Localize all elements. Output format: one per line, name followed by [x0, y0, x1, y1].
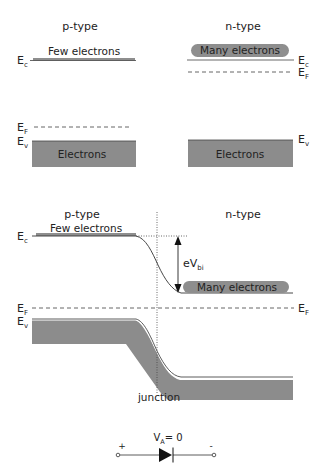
ec-label: Ec — [17, 230, 28, 245]
diode-symbol: VA= 0 + - — [116, 432, 216, 463]
many-electrons-label: Many electrons — [197, 281, 277, 293]
p-type-title: p-type — [62, 20, 98, 33]
ev-label: Ev — [17, 135, 28, 150]
pn-junction: p-type n-type Few electrons Ec Many elec… — [17, 208, 309, 403]
p-type-title: p-type — [64, 208, 100, 221]
many-electrons-label: Many electrons — [200, 44, 280, 56]
few-electrons-label: Few electrons — [50, 222, 122, 234]
ef-right-label: EF — [298, 302, 309, 317]
ef-label: EF — [17, 121, 28, 136]
electrons-label: Electrons — [58, 148, 107, 160]
band-diagram: p-type Few electrons Ec EF Ev Electrons … — [0, 0, 324, 476]
electrons-label: Electrons — [216, 148, 265, 160]
barrier-label: eVbi — [183, 257, 204, 272]
arrow-down-head-icon — [175, 284, 182, 293]
few-electrons-label: Few electrons — [48, 45, 120, 57]
ev-label: Ev — [17, 315, 28, 330]
arrow-up-head-icon — [175, 236, 182, 245]
plus-terminal-label: + — [118, 441, 126, 451]
applied-voltage-label: VA= 0 — [153, 432, 182, 446]
cathode-terminal-icon — [212, 453, 216, 457]
n-type-title: n-type — [225, 20, 261, 33]
ec-label: Ec — [17, 54, 28, 69]
anode-terminal-icon — [116, 453, 120, 457]
minus-terminal-label: - — [209, 441, 212, 451]
n-type-title: n-type — [225, 208, 261, 221]
n-type-isolated: n-type Many electrons Ec EF Ev Electrons — [187, 20, 309, 167]
diode-triangle-icon — [159, 448, 172, 462]
junction-label: junction — [137, 391, 180, 403]
p-type-isolated: p-type Few electrons Ec EF Ev Electrons — [17, 20, 136, 167]
valence-band-bent — [32, 320, 293, 400]
ev-label: Ev — [298, 133, 309, 148]
